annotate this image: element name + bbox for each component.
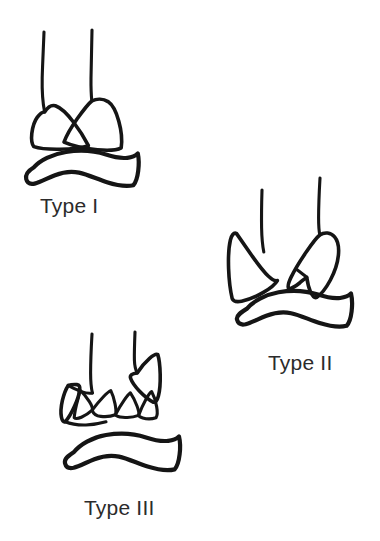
type-1-illustration	[26, 30, 139, 186]
type-3-tibia-shaft	[91, 334, 93, 393]
type-2-tibia-shaft	[262, 190, 264, 252]
type-3-talus	[65, 434, 180, 470]
fracture-illustration	[0, 0, 380, 541]
type-3-fibula-shaft	[134, 332, 137, 373]
caption-type-1: Type I	[40, 195, 98, 216]
type-3-articular-line	[65, 422, 106, 425]
type-2-lateral-fragment	[288, 233, 338, 298]
type-2-illustration	[228, 178, 352, 327]
caption-type-3: Type III	[84, 497, 154, 518]
type-1-lateral-fragment	[64, 99, 122, 150]
type-3-comminuted-fragment-4	[139, 392, 158, 419]
type-3-illustration	[61, 332, 180, 470]
caption-type-2: Type II	[268, 352, 332, 373]
type-3-comminuted-fragment-2	[92, 391, 116, 417]
type-1-tibia-shaft	[42, 32, 44, 112]
type-1-fibula-shaft	[91, 30, 92, 101]
type-2-fibula-shaft	[319, 178, 320, 235]
type-1-medial-fragment	[32, 105, 89, 149]
type-3-comminuted-fragment-3	[115, 393, 138, 418]
type-2-fragment-notch	[297, 270, 306, 277]
type-1-talus	[26, 151, 139, 186]
type-2-medial-fragment	[228, 233, 277, 301]
figure-root: Type I Type II Type III	[0, 0, 380, 541]
